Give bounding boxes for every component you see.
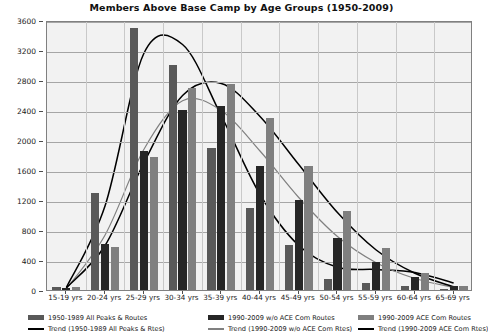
y-axis-tick [39, 291, 43, 292]
y-axis-tick-label: 3200 [17, 47, 36, 56]
y-axis-tick-label: 0 [31, 287, 36, 296]
gridline [47, 82, 471, 83]
bar-1-3 [178, 110, 186, 290]
y-axis-tick [39, 231, 43, 232]
x-axis-tick [375, 291, 376, 294]
x-axis-tick [104, 291, 105, 294]
legend-item-trend-2[interactable]: Trend (1990-2009 ACE Com Rtes) [358, 324, 488, 333]
x-axis-tick [220, 291, 221, 294]
y-axis-tick [39, 171, 43, 172]
x-axis-tick-label: 65-69 yrs [436, 293, 470, 302]
y-axis-tick [39, 261, 43, 262]
y-axis-tick [39, 141, 43, 142]
bar-2-8 [382, 248, 390, 290]
x-axis-tick [65, 291, 66, 294]
x-axis-tick [336, 291, 337, 294]
category-gridline [357, 22, 358, 290]
legend-item-bar-0[interactable]: 1950-1989 All Peaks & Routes [28, 313, 165, 322]
x-axis-tick-label: 35-39 yrs [203, 293, 237, 302]
gridline [47, 112, 471, 113]
legend-line-icon [28, 328, 44, 330]
legend-item-trend-1[interactable]: Trend (1990-2009 w/o ACE Com Rtes) [208, 324, 352, 333]
category-gridline [241, 22, 242, 290]
legend-item-bar-1[interactable]: 1990-2009 w/o ACE Com Routes [208, 313, 352, 322]
x-axis-tick [259, 291, 260, 294]
bar-0-9 [401, 286, 409, 290]
legend-column-1: 1990-2009 w/o ACE Com RoutesTrend (1990-… [208, 313, 352, 335]
y-axis-tick [39, 111, 43, 112]
legend-column-0: 1950-1989 All Peaks & RoutesTrend (1950-… [28, 313, 165, 335]
y-axis-tick-label: 2800 [17, 77, 36, 86]
bar-2-1 [111, 247, 119, 291]
legend-item-trend-0[interactable]: Trend (1950-1989 All Peaks & Rtes) [28, 324, 165, 333]
y-axis-tick-label: 1600 [17, 167, 36, 176]
category-gridline [396, 22, 397, 290]
x-axis-tick-label: 60-64 yrs [397, 293, 431, 302]
plot-area [46, 21, 472, 291]
category-gridline [86, 22, 87, 290]
legend-label: 1990-2009 w/o ACE Com Routes [228, 314, 335, 322]
legend-swatch-icon [208, 315, 224, 320]
gridline [47, 142, 471, 143]
bar-1-8 [372, 262, 380, 290]
legend-line-icon [358, 328, 374, 330]
bar-1-4 [217, 106, 225, 290]
bar-1-7 [333, 238, 341, 291]
y-axis-tick [39, 51, 43, 52]
bar-0-1 [91, 193, 99, 290]
category-gridline [318, 22, 319, 290]
bar-2-6 [304, 166, 312, 290]
x-axis-tick-label: 55-59 yrs [358, 293, 392, 302]
bar-1-2 [140, 151, 148, 290]
x-axis-tick-label: 50-54 yrs [319, 293, 353, 302]
bar-2-5 [266, 118, 274, 291]
y-axis-tick-label: 3600 [17, 17, 36, 26]
legend-label: 1950-1989 All Peaks & Routes [48, 314, 147, 322]
chart-title: Members Above Base Camp by Age Groups (1… [0, 2, 483, 13]
bar-0-7 [324, 279, 332, 290]
category-gridline [124, 22, 125, 290]
y-axis-tick [39, 21, 43, 22]
legend-column-2: 1990-2009 ACE Com RoutesTrend (1990-2009… [358, 313, 488, 335]
bar-0-3 [169, 65, 177, 290]
category-gridline [202, 22, 203, 290]
y-axis-tick-label: 2400 [17, 107, 36, 116]
bar-2-3 [188, 88, 196, 291]
bar-1-0 [62, 288, 70, 290]
x-axis: 15-19 yrs20-24 yrs25-29 yrs30-34 yrs35-3… [46, 293, 472, 307]
x-axis-tick [143, 291, 144, 294]
legend-label: Trend (1990-2009 ACE Com Rtes) [378, 325, 488, 333]
bar-1-10 [450, 286, 458, 290]
legend-line-icon [208, 328, 224, 330]
y-axis-tick [39, 81, 43, 82]
legend-label: Trend (1990-2009 w/o ACE Com Rtes) [228, 325, 352, 333]
bar-0-8 [362, 283, 370, 291]
bar-0-5 [246, 208, 254, 291]
y-axis-tick-label: 400 [22, 257, 36, 266]
x-axis-tick-label: 25-29 yrs [126, 293, 160, 302]
bar-1-5 [256, 166, 264, 290]
legend-item-bar-2[interactable]: 1990-2009 ACE Com Routes [358, 313, 488, 322]
y-axis-tick-label: 800 [22, 227, 36, 236]
x-axis-tick-label: 15-19 yrs [48, 293, 82, 302]
bar-0-2 [130, 28, 138, 291]
x-axis-tick-label: 40-44 yrs [242, 293, 276, 302]
legend-swatch-icon [358, 315, 374, 320]
gridline [47, 22, 471, 23]
category-gridline [163, 22, 164, 290]
bar-2-10 [459, 286, 467, 291]
x-axis-tick [414, 291, 415, 294]
x-axis-tick [453, 291, 454, 294]
category-gridline [434, 22, 435, 290]
x-axis-tick-label: 20-24 yrs [87, 293, 121, 302]
bar-2-4 [227, 84, 235, 290]
bar-2-0 [72, 287, 80, 290]
bar-2-2 [150, 157, 158, 291]
bar-0-0 [52, 287, 60, 290]
legend-label: 1990-2009 ACE Com Routes [378, 314, 471, 322]
category-gridline [279, 22, 280, 290]
y-axis-tick-label: 1200 [17, 197, 36, 206]
x-axis-tick-label: 45-49 yrs [281, 293, 315, 302]
bar-2-9 [421, 273, 429, 290]
